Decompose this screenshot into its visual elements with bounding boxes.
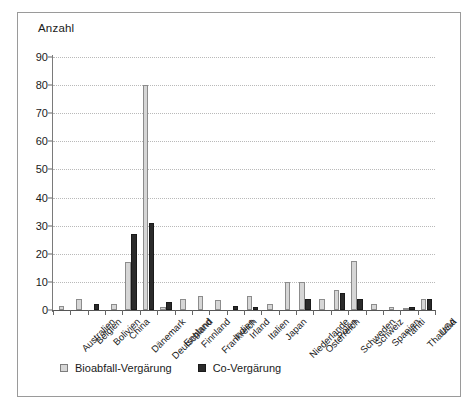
x-tick-mark-8: [192, 310, 193, 315]
x-tick-mark-6: [157, 310, 158, 315]
bar-group[interactable]: [105, 57, 122, 310]
x-tick-mark-13: [279, 310, 280, 315]
bar-group[interactable]: [122, 57, 139, 310]
x-tick-mark-5: [140, 310, 141, 315]
x-tick-mark-19: [383, 310, 384, 315]
bar-covergaerung-usa[interactable]: [427, 299, 433, 310]
bar-bioabfall-usa[interactable]: [421, 299, 427, 310]
bar-group[interactable]: [348, 57, 365, 310]
bar-group[interactable]: [88, 57, 105, 310]
legend-item-bioabfall[interactable]: Bioabfall-Vergärung: [60, 362, 172, 374]
bar-bioabfall-finnland[interactable]: [180, 299, 186, 310]
x-tick-mark-10: [227, 310, 228, 315]
bar-bioabfall-deutschland[interactable]: [143, 85, 149, 310]
chart-legend: Bioabfall-VergärungCo-Vergärung: [60, 362, 281, 374]
bar-bioabfall-belgien[interactable]: [76, 299, 82, 310]
x-tick-mark-18: [366, 310, 367, 315]
bar-bioabfall-schweiz[interactable]: [351, 261, 357, 310]
x-tick-mark-0: [53, 310, 54, 315]
bar-group[interactable]: [157, 57, 174, 310]
bar-group[interactable]: [383, 57, 400, 310]
bar-group[interactable]: [366, 57, 383, 310]
x-tick-mark-14: [296, 310, 297, 315]
bar-bioabfall-dänemark[interactable]: [125, 262, 131, 310]
y-axis-title: Anzahl: [38, 22, 74, 34]
bar-group[interactable]: [400, 57, 417, 310]
bar-covergaerung-deutschland[interactable]: [149, 223, 155, 310]
bar-group[interactable]: [331, 57, 348, 310]
chart-figure: Anzahl 0102030405060708090 AustralienBel…: [0, 0, 476, 411]
bar-bioabfall-österreich[interactable]: [299, 282, 305, 310]
bar-bioabfall-frankreich[interactable]: [198, 296, 204, 310]
light-square-icon: [60, 364, 68, 372]
bar-covergaerung-schweden[interactable]: [340, 293, 346, 310]
bar-covergaerung-dänemark[interactable]: [131, 234, 137, 310]
bar-bioabfall-indien[interactable]: [215, 300, 221, 310]
y-tick-label-20: 20: [36, 248, 48, 260]
y-tick-label-40: 40: [36, 192, 48, 204]
bar-bioabfall-polen[interactable]: [319, 299, 325, 310]
bar-group[interactable]: [70, 57, 87, 310]
bar-bioabfall-niederlande[interactable]: [285, 282, 291, 310]
x-tick-mark-17: [348, 310, 349, 315]
bar-group[interactable]: [261, 57, 278, 310]
x-tick-mark-1: [70, 310, 71, 315]
bar-group[interactable]: [175, 57, 192, 310]
x-tick-mark-21: [418, 310, 419, 315]
y-tick-label-10: 10: [36, 276, 48, 288]
y-axis-tick-labels: 0102030405060708090: [0, 57, 48, 310]
x-tick-mark-11: [244, 310, 245, 315]
y-tick-label-90: 90: [36, 51, 48, 63]
x-tick-mark-9: [209, 310, 210, 315]
x-tick-mark-4: [122, 310, 123, 315]
bar-group[interactable]: [279, 57, 296, 310]
x-tick-mark-15: [313, 310, 314, 315]
x-tick-mark-16: [331, 310, 332, 315]
x-tick-mark-7: [175, 310, 176, 315]
y-tick-label-80: 80: [36, 79, 48, 91]
y-tick-label-30: 30: [36, 220, 48, 232]
legend-label: Bioabfall-Vergärung: [75, 362, 172, 374]
bar-group[interactable]: [296, 57, 313, 310]
bar-group[interactable]: [53, 57, 70, 310]
x-tick-mark-2: [88, 310, 89, 315]
bar-group[interactable]: [140, 57, 157, 310]
bar-group[interactable]: [418, 57, 435, 310]
bar-group[interactable]: [227, 57, 244, 310]
bar-covergaerung-england[interactable]: [166, 302, 172, 310]
bar-group[interactable]: [313, 57, 330, 310]
x-tick-mark-3: [105, 310, 106, 315]
legend-label: Co-Vergärung: [213, 362, 282, 374]
dark-square-icon: [198, 364, 206, 372]
x-tick-mark-12: [261, 310, 262, 315]
bar-group[interactable]: [244, 57, 261, 310]
y-tick-label-50: 50: [36, 163, 48, 175]
bar-series-container: [53, 57, 435, 310]
y-tick-label-70: 70: [36, 107, 48, 119]
legend-item-covergaerung[interactable]: Co-Vergärung: [198, 362, 282, 374]
bar-group[interactable]: [192, 57, 209, 310]
bar-bioabfall-schweden[interactable]: [334, 290, 340, 310]
bar-covergaerung-schweiz[interactable]: [357, 299, 363, 310]
bar-group[interactable]: [209, 57, 226, 310]
bar-covergaerung-österreich[interactable]: [305, 299, 311, 310]
x-tick-mark-end: [435, 310, 436, 315]
bar-bioabfall-italien[interactable]: [247, 296, 253, 310]
x-tick-mark-20: [400, 310, 401, 315]
y-tick-label-60: 60: [36, 135, 48, 147]
